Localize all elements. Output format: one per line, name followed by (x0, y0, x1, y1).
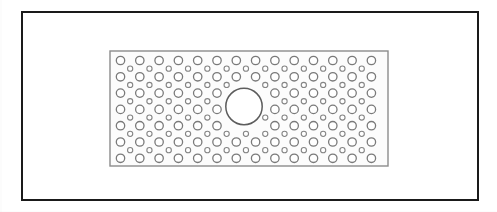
large-perforation (136, 56, 144, 64)
large-perforation (367, 73, 375, 81)
large-perforation (271, 105, 279, 113)
small-perforation (359, 66, 364, 71)
small-perforation (321, 115, 326, 120)
large-perforation (309, 73, 317, 81)
small-perforation (243, 131, 248, 136)
small-perforation (128, 82, 133, 87)
small-perforation (321, 131, 326, 136)
small-perforation (282, 99, 287, 104)
large-perforation (290, 89, 298, 97)
large-perforation (213, 73, 221, 81)
large-perforation (251, 138, 259, 146)
small-perforation (224, 148, 229, 153)
large-perforation (367, 138, 375, 146)
small-perforation (224, 82, 229, 87)
small-perforation (282, 82, 287, 87)
large-perforation (251, 73, 259, 81)
small-perforation (147, 148, 152, 153)
small-perforation (205, 148, 210, 153)
small-perforation (359, 148, 364, 153)
large-perforation (194, 56, 202, 64)
large-perforation (116, 56, 124, 64)
small-perforation (321, 82, 326, 87)
small-perforation (128, 99, 133, 104)
large-perforation (271, 154, 279, 162)
large-perforation (348, 154, 356, 162)
large-perforation (116, 89, 124, 97)
large-perforation (174, 89, 182, 97)
small-perforation (359, 115, 364, 120)
large-perforation (367, 56, 375, 64)
large-perforation (271, 73, 279, 81)
large-perforation (290, 105, 298, 113)
small-perforation (185, 115, 190, 120)
large-perforation (155, 56, 163, 64)
large-perforation (155, 122, 163, 130)
large-perforation (348, 105, 356, 113)
small-perforation (340, 148, 345, 153)
large-perforation (194, 122, 202, 130)
small-perforation (224, 66, 229, 71)
small-perforation (147, 99, 152, 104)
large-perforation (329, 56, 337, 64)
small-perforation (147, 131, 152, 136)
small-perforation (205, 115, 210, 120)
small-perforation (243, 66, 248, 71)
large-perforation (136, 105, 144, 113)
small-perforation (359, 131, 364, 136)
small-perforation (166, 131, 171, 136)
large-perforation (174, 122, 182, 130)
large-perforation (367, 154, 375, 162)
large-perforation (348, 56, 356, 64)
small-perforation (185, 82, 190, 87)
large-perforation (155, 105, 163, 113)
large-perforation (136, 138, 144, 146)
large-perforation (232, 73, 240, 81)
large-perforation (309, 89, 317, 97)
small-perforation (263, 82, 268, 87)
small-perforation (147, 115, 152, 120)
technical-drawing (0, 0, 497, 212)
large-perforation (367, 122, 375, 130)
large-perforation (155, 138, 163, 146)
large-perforation (213, 154, 221, 162)
small-perforation (282, 131, 287, 136)
small-perforation (243, 148, 248, 153)
large-perforation (367, 89, 375, 97)
small-perforation (359, 99, 364, 104)
large-perforation (213, 138, 221, 146)
large-perforation (136, 154, 144, 162)
large-perforation (213, 105, 221, 113)
small-perforation (301, 82, 306, 87)
large-perforation (174, 73, 182, 81)
large-perforation (136, 73, 144, 81)
small-perforation (301, 148, 306, 153)
large-perforation (194, 73, 202, 81)
small-perforation (166, 66, 171, 71)
small-perforation (147, 66, 152, 71)
small-perforation (340, 82, 345, 87)
large-perforation (194, 105, 202, 113)
large-perforation (194, 138, 202, 146)
small-perforation (359, 82, 364, 87)
small-perforation (128, 131, 133, 136)
small-perforation (301, 131, 306, 136)
large-perforation (116, 154, 124, 162)
large-perforation (329, 138, 337, 146)
large-perforation (155, 89, 163, 97)
large-perforation (174, 138, 182, 146)
large-perforation (290, 122, 298, 130)
large-perforation (174, 56, 182, 64)
small-perforation (185, 131, 190, 136)
large-perforation (329, 105, 337, 113)
large-perforation (309, 154, 317, 162)
small-perforation (166, 115, 171, 120)
large-perforation (232, 154, 240, 162)
central-bore-circle (226, 88, 262, 124)
small-perforation (301, 115, 306, 120)
large-perforation (251, 56, 259, 64)
large-perforation (271, 56, 279, 64)
large-perforation (309, 138, 317, 146)
large-perforation (348, 73, 356, 81)
large-perforation (194, 89, 202, 97)
